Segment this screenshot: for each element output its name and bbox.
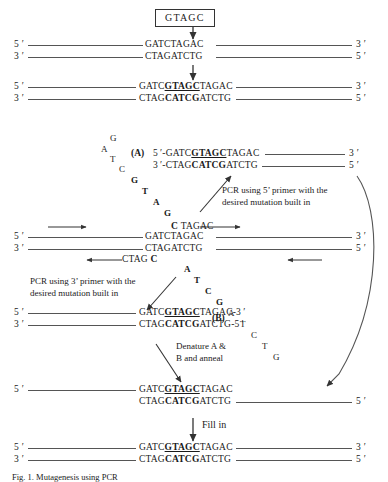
product-b-left-3prime: 3 ′ [14,319,24,329]
product-b-overhang-base-6: C [251,330,257,340]
product-a-right-5prime: 5 ′ [349,160,359,170]
final-left-3prime: 3 ′ [14,454,24,464]
duplex1-bottom-sequence: CTAGATCTG [145,51,203,61]
duplex2-left-3prime: 3 ′ [14,93,24,103]
annealed-right-5prime: 5 ′ [356,396,366,406]
annealed-left-5prime: 5 ′ [14,384,24,394]
annotation-pcr-5prime: PCR using 5’ primer with the desired mut… [222,185,328,208]
product-b-overhang-base-8: G [273,352,280,362]
annotation-pcr-3prime-line2: desired mutation built in [30,288,136,300]
annotation-pcr-5prime-line2: desired mutation built in [222,197,328,209]
product-a-top-sequence: 5 ′-GATCGTAGCTAGAC [153,148,259,158]
product-b-overhang-base-0: A [184,264,191,274]
recycle-curve-arrow [327,176,374,386]
product-a-bottom-sequence: 3 ′-CTAGCATCGATCTG [153,160,258,170]
product-a-overhang-base-2: T [110,154,116,164]
product-b-bottom-sequence: CTAGCATCGATCTG-5 ′ [139,319,244,329]
product-b-top-sequence: GATCGTAGCTAGAC-3 ′ [139,307,245,317]
duplex2-bottom-sequence: CTAGCATCGATCTG [139,93,231,103]
annotation-pcr-3prime: PCR using 3’ primer with the desired mut… [30,276,136,299]
panel-tag-b: (B) [212,313,225,323]
product-b-overhang-base-7: T [262,341,268,351]
panel-tag-a: (A) [131,148,144,158]
final-right-5prime: 5 ′ [356,454,366,464]
annotation-denature-line1: Denature A & [176,341,226,353]
primer-box-label: GTAGC [155,9,215,27]
template-right-3prime: 3 ′ [356,231,366,241]
final-bottom-sequence: CTAGCATCGATCTG [139,454,231,464]
final-left-5prime: 5 ′ [14,442,24,452]
product-b-overhang-base-3: G [216,297,223,307]
template-left-5prime: 5 ′ [14,231,24,241]
annealed-bottom-sequence: CTAGCATCGATCTG [139,396,231,406]
duplex2-left-5prime: 5 ′ [14,81,24,91]
product-b-overhang-base-2: C [205,286,212,296]
product-a-overhang-base-7: G [164,208,171,218]
template-left-3prime: 3 ′ [14,243,24,253]
figure-caption: Fig. 1. Mutagenesis using PCR [12,472,118,482]
duplex1-left-5prime: 5 ′ [14,39,24,49]
duplex1-top-sequence: GATCTAGAC [145,39,204,49]
product-a-right-3prime: 3 ′ [349,148,359,158]
duplex2-top-sequence: GATCGTAGCTAGAC [139,81,233,91]
product-a-overhang-base-6: A [153,197,160,207]
duplex1-right-3prime: 3 ′ [356,39,366,49]
duplex2-right-5prime: 5 ′ [356,93,366,103]
product-a-overhang-base-4: G [131,175,138,185]
template-right-5prime: 5 ′ [356,243,366,253]
annotation-denature-line2: B and anneal [176,353,226,365]
final-top-sequence: GATCGTAGCTAGAC [139,442,233,452]
product-b-left-5prime: 5 ′ [14,307,24,317]
annealed-top-sequence: GATCGTAGCTAGAC [139,384,233,394]
duplex2-right-3prime: 3 ′ [356,81,366,91]
template-bottom-sequence: CTAGATCTG [145,243,203,253]
annotation-pcr-5prime-line1: PCR using 5’ primer with the [222,185,328,197]
annotation-denature: Denature A & B and anneal [176,341,226,364]
annotation-pcr-3prime-line1: PCR using 3’ primer with the [30,276,136,288]
product-a-overhang-base-3: C [119,164,125,174]
final-right-3prime: 3 ′ [356,442,366,452]
overhang-top-primer-seq: C TAGAC [171,221,214,231]
pointer-arrow-b [147,277,176,310]
overhang-bottom-primer-seq: CTAG C [122,254,158,264]
product-a-overhang-base-5: T [142,186,148,196]
product-b-overhang-base-1: T [194,275,200,285]
mutagenic-primer-box: GTAGC [155,7,215,25]
annotation-fill-in: Fill in [202,419,226,431]
template-top-sequence: GATCTAGAC [145,231,204,241]
product-a-overhang-base-0: G [110,133,117,143]
duplex1-right-5prime: 5 ′ [356,51,366,61]
duplex1-left-3prime: 3 ′ [14,51,24,61]
product-a-overhang-base-1: A [101,144,108,154]
